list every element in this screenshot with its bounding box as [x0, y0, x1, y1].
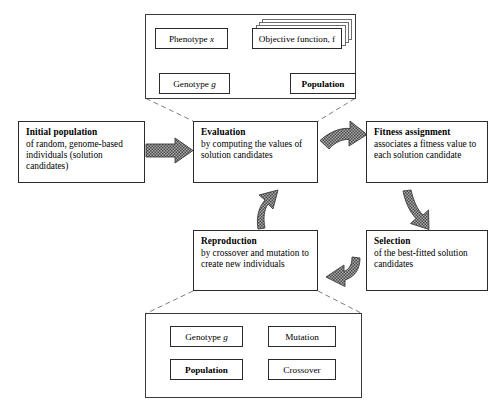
flow-arrow-selection-to-reproduction	[326, 257, 360, 287]
genotype-box-bottom[interactable]: Genotype g	[170, 326, 243, 347]
population-box-top[interactable]: Population	[290, 73, 356, 94]
phenotype-box[interactable]: Phenotype x	[155, 28, 228, 49]
evaluation-box[interactable]: Evaluation by computing the values of so…	[193, 121, 318, 183]
initial-population-title: Initial population	[26, 127, 138, 138]
genotype-box-top[interactable]: Genotype g	[159, 73, 230, 94]
dashed-connectors-top	[146, 99, 355, 122]
objective-function-label: Objective function, f	[259, 34, 335, 44]
initial-population-body: of random, genome-based individuals (sol…	[26, 139, 138, 172]
reproduction-body: by crossover and mutation to create new …	[201, 248, 311, 270]
flow-arrow-evaluation-to-fitness	[320, 121, 367, 149]
fitness-assignment-box[interactable]: Fitness assignment associates a fitness …	[366, 121, 488, 183]
flow-arrow-initial-to-evaluation	[146, 138, 193, 163]
initial-population-box[interactable]: Initial population of random, genome-bas…	[18, 121, 145, 183]
selection-title: Selection	[374, 236, 481, 247]
objective-function-box[interactable]: Objective function, f	[252, 28, 342, 49]
population-label-bottom: Population	[185, 365, 228, 375]
mutation-box[interactable]: Mutation	[268, 326, 336, 347]
crossover-box[interactable]: Crossover	[268, 359, 336, 380]
flow-arrow-reproduction-to-evaluation	[257, 190, 278, 229]
fitness-assignment-body: associates a fitness value to each solut…	[374, 139, 481, 161]
mutation-label: Mutation	[285, 332, 319, 342]
selection-body: of the best-fitted solution candidates	[374, 248, 481, 270]
genotype-label-bottom: Genotype g	[185, 332, 228, 342]
genotype-label-top: Genotype g	[173, 79, 216, 89]
reproduction-box[interactable]: Reproduction by crossover and mutation t…	[193, 230, 318, 291]
population-box-bottom[interactable]: Population	[170, 359, 243, 380]
dashed-connectors-bottom	[146, 291, 362, 314]
reproduction-title: Reproduction	[201, 236, 311, 247]
fitness-assignment-title: Fitness assignment	[374, 127, 481, 138]
evaluation-title: Evaluation	[201, 127, 311, 138]
evaluation-body: by computing the values of solution cand…	[201, 139, 311, 161]
crossover-label: Crossover	[283, 365, 320, 375]
phenotype-label: Phenotype x	[169, 34, 214, 44]
flow-arrow-fitness-to-selection	[403, 190, 429, 230]
selection-box[interactable]: Selection of the best-fitted solution ca…	[366, 230, 488, 291]
diagram-canvas: Objective function, f Phenotype x Genoty…	[0, 0, 501, 412]
population-label-top: Population	[302, 79, 345, 89]
